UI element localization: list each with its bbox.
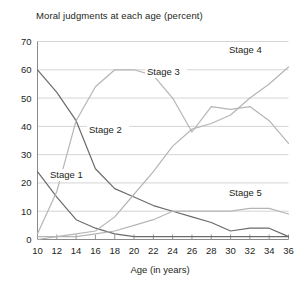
series-line-stage-3 xyxy=(38,70,289,234)
x-tick-label-32: 32 xyxy=(245,245,256,256)
series-labels-group: Stage 1Stage 2Stage 3Stage 4Stage 5 xyxy=(48,44,269,199)
series-label-stage-3: Stage 3 xyxy=(147,66,180,77)
x-tick-label-24: 24 xyxy=(167,245,178,256)
x-tick-label-12: 12 xyxy=(52,245,63,256)
x-tick-label-36: 36 xyxy=(283,245,294,256)
y-tick-label-70: 70 xyxy=(21,36,32,47)
x-tick-label-16: 16 xyxy=(90,245,101,256)
x-tick-label-10: 10 xyxy=(32,245,43,256)
series-line-stage-5 xyxy=(38,208,289,239)
series-line-stage-2 xyxy=(38,70,289,237)
y-tick-label-30: 30 xyxy=(21,149,32,160)
series-label-stage-1: Stage 1 xyxy=(50,169,83,180)
y-tick-label-0: 0 xyxy=(26,234,31,245)
x-tick-labels-group: 1012141618202224262830323436 xyxy=(32,245,294,256)
series-line-stage-1 xyxy=(38,172,289,237)
y-tick-labels-group: 010203040506070 xyxy=(21,36,32,245)
series-label-stage-5: Stage 5 xyxy=(229,187,262,198)
series-label-stage-2: Stage 2 xyxy=(89,124,122,135)
y-tick-label-20: 20 xyxy=(21,177,32,188)
y-tick-label-50: 50 xyxy=(21,93,32,104)
x-tick-label-28: 28 xyxy=(206,245,217,256)
y-tick-label-40: 40 xyxy=(21,121,32,132)
x-tick-label-18: 18 xyxy=(109,245,120,256)
series-label-stage-4: Stage 4 xyxy=(229,44,262,55)
y-tick-label-60: 60 xyxy=(21,64,32,75)
chart-canvas: 010203040506070 101214161820222426283032… xyxy=(0,0,298,285)
x-tick-label-20: 20 xyxy=(129,245,140,256)
x-tick-label-22: 22 xyxy=(148,245,159,256)
x-axis-title: Age (in years) xyxy=(130,264,189,275)
moral-judgments-line-chart: Moral judgments at each age (percent) 01… xyxy=(0,0,298,285)
x-tick-label-30: 30 xyxy=(225,245,236,256)
x-tick-label-14: 14 xyxy=(71,245,82,256)
x-tick-label-26: 26 xyxy=(187,245,198,256)
x-tick-label-34: 34 xyxy=(264,245,275,256)
y-tick-label-10: 10 xyxy=(21,206,32,217)
data-series-group xyxy=(38,67,289,240)
